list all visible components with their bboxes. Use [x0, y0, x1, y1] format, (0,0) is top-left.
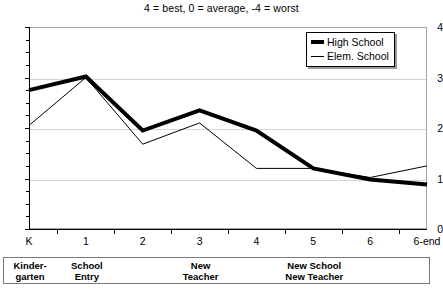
chart-legend: High School Elem. School	[306, 32, 395, 67]
series-line-high-school	[29, 76, 427, 184]
x-axis-label-1: 1	[83, 236, 89, 247]
x-axis-label-2: 2	[140, 236, 146, 247]
annotation-line-1: New	[183, 260, 219, 271]
annotation-line-2: Teacher	[183, 271, 219, 282]
y-axis-ticks	[0, 27, 29, 229]
annotation-line-1: New School	[285, 260, 343, 271]
annotation-kinder: Kinder-garten	[13, 260, 46, 282]
x-tick	[399, 230, 400, 234]
chart-title: 4 = best, 0 = average, -4 = worst	[0, 2, 443, 14]
annotation-line-1: Kinder-	[13, 260, 46, 271]
annotation-new-school: New SchoolNew Teacher	[285, 260, 343, 282]
x-tick	[342, 230, 343, 234]
legend-label-elem-school: Elem. School	[327, 50, 389, 62]
x-tick	[114, 230, 115, 234]
x-axis-label-3: 3	[197, 236, 203, 247]
annotation-line-2: New Teacher	[285, 271, 343, 282]
legend-label-high-school: High School	[327, 36, 384, 48]
annotation-line-2: garten	[13, 271, 46, 282]
annotation-new: NewTeacher	[183, 260, 219, 282]
chart-root: 4 = best, 0 = average, -4 = worst 01234 …	[0, 0, 443, 290]
x-axis-label-4: 4	[254, 236, 260, 247]
legend-item-high-school: High School	[311, 35, 389, 49]
legend-item-elem-school: Elem. School	[311, 49, 389, 63]
x-tick	[285, 230, 286, 234]
series-line-elem-school	[29, 78, 427, 178]
annotation-line-2: Entry	[71, 271, 103, 282]
legend-swatch-elem-school-icon	[311, 56, 324, 57]
annotation-band: Kinder-gartenSchoolEntryNewTeacherNew Sc…	[3, 257, 430, 284]
annotation-school: SchoolEntry	[71, 260, 103, 282]
annotation-line-1: School	[71, 260, 103, 271]
x-tick	[228, 230, 229, 234]
x-tick	[57, 230, 58, 234]
x-axis-label-5: 5	[310, 236, 316, 247]
x-axis-label-6-end: 6-end	[414, 236, 441, 247]
x-axis-label-K: K	[25, 236, 32, 247]
x-axis-label-6: 6	[367, 236, 373, 247]
legend-swatch-high-school-icon	[311, 40, 324, 44]
x-tick	[171, 230, 172, 234]
